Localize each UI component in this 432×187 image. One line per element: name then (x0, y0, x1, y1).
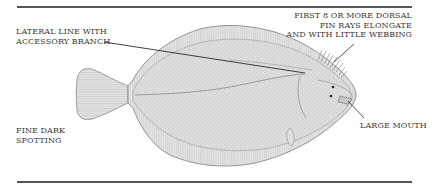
leader-dorsal-fin (334, 44, 354, 62)
upper-eye (332, 86, 335, 89)
label-lateral-line: LATERAL LINE WITH ACCESSORY BRANCH (16, 27, 110, 46)
label-dorsal-fin: FIRST 8 OR MORE DORSAL FIN RAYS ELONGATE… (286, 11, 412, 40)
leader-mouth (348, 101, 364, 118)
label-large-mouth: LARGE MOUTH (360, 121, 427, 131)
label-fine-dark-spotting: FINE DARK SPOTTING (16, 126, 65, 145)
caudal-fin (76, 68, 128, 119)
lower-eye (330, 95, 333, 98)
flounder-figure: LATERAL LINE WITH ACCESSORY BRANCH FIRST… (0, 0, 432, 187)
